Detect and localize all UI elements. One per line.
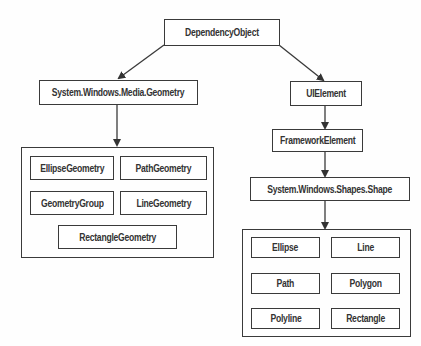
node-uielement: UIElement xyxy=(290,81,362,106)
arrow-dependencyobject-to-uielement xyxy=(279,45,323,80)
node-pathgeometry: PathGeometry xyxy=(120,156,207,180)
node-label: System.Windows.Media.Geometry xyxy=(52,87,184,98)
node-label: System.Windows.Shapes.Shape xyxy=(268,184,393,195)
node-geometrygroup: GeometryGroup xyxy=(30,191,114,215)
node-label: Polyline xyxy=(270,313,301,324)
node-label: FrameworkElement xyxy=(280,135,355,146)
node-frameworkelement: FrameworkElement xyxy=(272,129,363,152)
node-ellipse: Ellipse xyxy=(251,237,320,258)
node-label: Rectangle xyxy=(346,313,385,324)
class-hierarchy-diagram: DependencyObject System.Windows.Media.Ge… xyxy=(0,0,421,346)
node-label: GeometryGroup xyxy=(41,198,104,209)
arrow-dependencyobject-to-geometry xyxy=(119,45,164,78)
node-path: Path xyxy=(251,273,320,294)
node-rectanglegeometry: RectangleGeometry xyxy=(58,225,177,249)
node-dependencyobject: DependencyObject xyxy=(164,19,280,46)
node-label: RectangleGeometry xyxy=(79,232,156,243)
node-label: EllipseGeometry xyxy=(40,163,104,174)
node-polygon: Polygon xyxy=(331,273,400,294)
node-polyline: Polyline xyxy=(251,308,320,329)
node-label: Path xyxy=(277,278,295,289)
node-label: Line xyxy=(357,242,374,253)
node-label: LineGeometry xyxy=(136,198,191,209)
node-label: Ellipse xyxy=(273,242,299,253)
node-label: PathGeometry xyxy=(136,163,192,174)
node-ellipsegeometry: EllipseGeometry xyxy=(30,156,114,180)
node-rectangle: Rectangle xyxy=(331,308,400,329)
node-label: Polygon xyxy=(349,278,381,289)
node-shapes-shape: System.Windows.Shapes.Shape xyxy=(250,177,410,201)
node-line: Line xyxy=(331,237,400,258)
node-label: UIElement xyxy=(306,88,346,99)
node-media-geometry: System.Windows.Media.Geometry xyxy=(39,80,198,105)
node-linegeometry: LineGeometry xyxy=(120,191,207,215)
node-label: DependencyObject xyxy=(185,27,259,38)
